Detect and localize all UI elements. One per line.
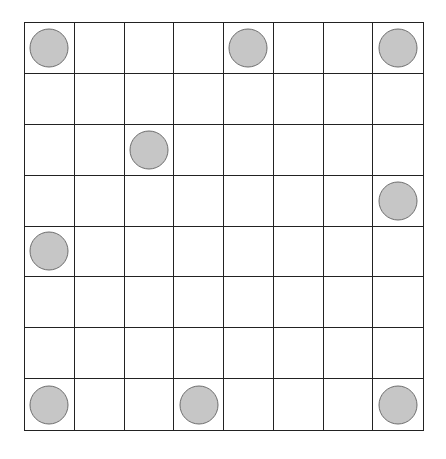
circle-token [179,385,218,424]
grid-cell-r5-c1 [75,277,125,328]
grid-cell-r7-c7 [373,379,423,430]
circle-token [229,28,268,67]
grid-cell-r6-c4 [224,328,274,379]
grid-cell-r0-c0 [25,23,75,74]
grid-cell-r2-c1 [75,125,125,176]
grid-cell-r3-c3 [174,176,224,227]
grid-cell-r6-c2 [125,328,175,379]
grid-cell-r3-c4 [224,176,274,227]
grid-cell-r1-c1 [75,74,125,125]
grid-cell-r1-c6 [324,74,374,125]
grid-cell-r7-c5 [274,379,324,430]
grid-cell-r6-c7 [373,328,423,379]
grid-cell-r5-c6 [324,277,374,328]
grid-cell-r7-c2 [125,379,175,430]
grid-cell-r2-c6 [324,125,374,176]
grid-cell-r2-c3 [174,125,224,176]
circle-token [129,130,168,169]
grid-cell-r4-c5 [274,227,324,278]
grid-cell-r5-c7 [373,277,423,328]
grid-cell-r1-c2 [125,74,175,125]
grid-cell-r4-c3 [174,227,224,278]
grid-cell-r1-c5 [274,74,324,125]
grid-cell-r6-c6 [324,328,374,379]
circle-token [379,181,418,220]
grid-cell-r0-c2 [125,23,175,74]
circle-token [379,28,418,67]
grid-cell-r1-c4 [224,74,274,125]
grid-cell-r7-c0 [25,379,75,430]
grid-cell-r0-c3 [174,23,224,74]
grid-cell-r3-c7 [373,176,423,227]
grid-cell-r1-c3 [174,74,224,125]
grid-cell-r0-c5 [274,23,324,74]
grid-cell-r4-c1 [75,227,125,278]
grid-cell-r6-c1 [75,328,125,379]
grid-board [24,22,424,431]
grid-cell-r2-c2 [125,125,175,176]
circle-token [30,28,69,67]
grid-cell-r7-c1 [75,379,125,430]
grid-cell-r7-c4 [224,379,274,430]
grid-cell-r7-c3 [174,379,224,430]
grid-cell-r5-c5 [274,277,324,328]
grid-cell-r6-c0 [25,328,75,379]
grid-cell-r0-c1 [75,23,125,74]
grid-cell-r2-c4 [224,125,274,176]
grid-cell-r3-c1 [75,176,125,227]
grid-cell-r5-c4 [224,277,274,328]
grid-cell-r4-c7 [373,227,423,278]
grid-cell-r2-c0 [25,125,75,176]
grid-cell-r7-c6 [324,379,374,430]
grid-cell-r5-c2 [125,277,175,328]
circle-token [30,232,69,271]
grid-cell-r6-c5 [274,328,324,379]
grid-cell-r3-c5 [274,176,324,227]
grid-cell-r3-c0 [25,176,75,227]
grid-cell-r4-c0 [25,227,75,278]
grid-cell-r0-c7 [373,23,423,74]
circle-token [379,385,418,424]
grid-cell-r0-c6 [324,23,374,74]
grid-cell-r3-c6 [324,176,374,227]
grid-cell-r0-c4 [224,23,274,74]
grid-cell-r5-c0 [25,277,75,328]
circle-token [30,385,69,424]
grid-cell-r1-c0 [25,74,75,125]
grid-cell-r4-c6 [324,227,374,278]
grid-cell-r6-c3 [174,328,224,379]
grid-cell-r4-c2 [125,227,175,278]
grid-cell-r2-c5 [274,125,324,176]
grid-cell-r5-c3 [174,277,224,328]
grid-cell-r3-c2 [125,176,175,227]
grid-cell-r4-c4 [224,227,274,278]
grid-cell-r2-c7 [373,125,423,176]
grid-cell-r1-c7 [373,74,423,125]
